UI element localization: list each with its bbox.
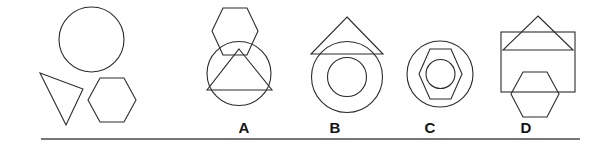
option-b-inner-circle [328, 58, 367, 97]
prompt-hexagon [88, 78, 136, 122]
shape-puzzle-figure: A B C D [0, 0, 604, 149]
option-d-triangle [503, 16, 573, 50]
option-a-circle [207, 42, 271, 106]
option-a-group[interactable] [207, 8, 272, 106]
option-d-group[interactable] [501, 16, 575, 117]
option-b-triangle [311, 17, 383, 54]
prompt-triangle [40, 73, 83, 125]
option-label-d[interactable]: D [514, 120, 538, 135]
given-shapes-group [40, 7, 136, 125]
option-label-c[interactable]: C [418, 120, 442, 135]
option-b-outer-circle [312, 42, 383, 113]
option-b-group[interactable] [311, 17, 383, 113]
option-label-a[interactable]: A [232, 120, 256, 135]
option-d-hexagon [511, 72, 559, 117]
option-c-outer-circle [407, 41, 473, 107]
option-c-inner-circle [426, 60, 455, 89]
prompt-circle [59, 7, 124, 72]
option-label-b[interactable]: B [323, 120, 347, 135]
option-c-group[interactable] [407, 41, 473, 107]
